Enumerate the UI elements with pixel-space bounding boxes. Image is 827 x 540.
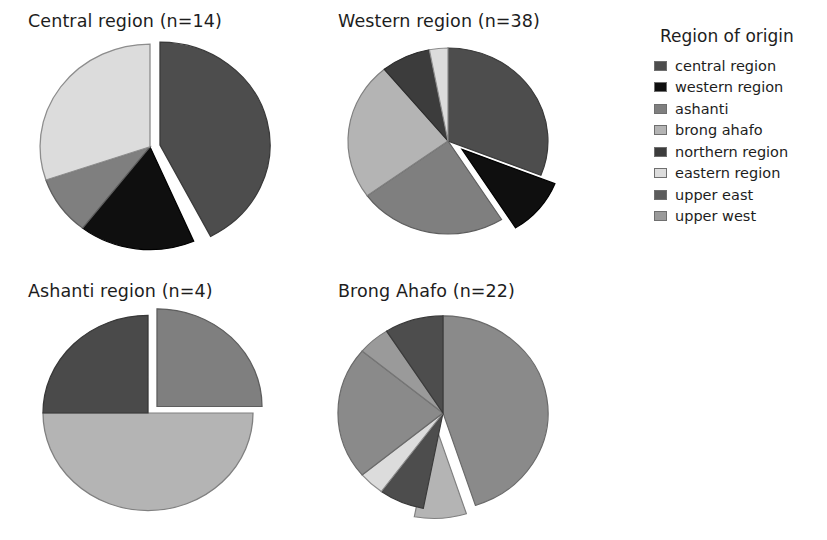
legend-item-label: upper west	[675, 209, 756, 224]
pie-western-region	[318, 38, 598, 253]
legend-item[interactable]: central region	[654, 55, 827, 77]
legend-item[interactable]: upper east	[654, 184, 827, 206]
legend-item[interactable]: brong ahafo	[654, 120, 827, 142]
panel-title-western: Western region (n=38)	[338, 11, 540, 31]
pie-ashanti-region	[18, 308, 288, 523]
panel-title-brong: Brong Ahafo (n=22)	[338, 281, 515, 301]
pie-svg-brong	[318, 308, 608, 523]
legend-item[interactable]: upper west	[654, 206, 827, 228]
pie-brong-ahafo	[318, 308, 608, 523]
panel-title-ashanti: Ashanti region (n=4)	[28, 281, 213, 301]
legend-swatch-icon	[654, 104, 667, 114]
pie-slice-ashanti-2	[43, 315, 148, 413]
pie-slice-ashanti-1	[43, 413, 253, 511]
legend-item[interactable]: western region	[654, 77, 827, 99]
legend-swatch-icon	[654, 211, 667, 221]
pie-svg-ashanti	[18, 308, 288, 523]
legend-item-label: central region	[675, 59, 776, 74]
legend-swatch-icon	[654, 168, 667, 178]
pie-slice-brong-0	[443, 316, 548, 506]
pie-slice-ashanti-0	[157, 309, 262, 407]
legend-swatch-icon	[654, 190, 667, 200]
legend-swatch-icon	[654, 61, 667, 71]
legend-item[interactable]: eastern region	[654, 163, 827, 185]
legend-item[interactable]: northern region	[654, 141, 827, 163]
legend-swatch-icon	[654, 82, 667, 92]
pie-slice-western-0	[448, 48, 548, 175]
legend-item-label: ashanti	[675, 102, 728, 117]
legend-item-label: upper east	[675, 188, 753, 203]
legend-list: central region western region ashanti br…	[654, 55, 827, 227]
legend-swatch-icon	[654, 147, 667, 157]
legend-item-label: northern region	[675, 145, 788, 160]
pie-central-region	[18, 38, 288, 253]
legend-item[interactable]: ashanti	[654, 98, 827, 120]
legend-item-label: brong ahafo	[675, 123, 763, 138]
pie-svg-western	[318, 38, 598, 253]
pie-chart-figure: Central region (n=14) Western region (n=…	[0, 0, 827, 540]
pie-svg-central	[18, 38, 288, 253]
legend-item-label: eastern region	[675, 166, 780, 181]
panel-title-central: Central region (n=14)	[28, 11, 222, 31]
legend-title: Region of origin	[660, 26, 827, 46]
legend-swatch-icon	[654, 125, 667, 135]
legend: Region of origin central region western …	[654, 26, 827, 227]
legend-item-label: western region	[675, 80, 783, 95]
